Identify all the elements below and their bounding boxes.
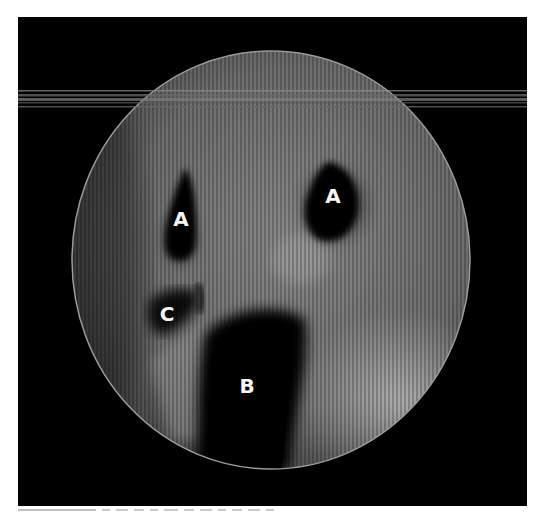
image-frame: A A C B [18,17,527,506]
endoscopic-image: A A C B [18,17,527,506]
label-a-left: A [173,207,189,231]
label-c: C [160,302,175,326]
label-a-right: A [325,184,341,208]
caption-fragment [18,509,527,514]
label-b: B [239,374,254,398]
